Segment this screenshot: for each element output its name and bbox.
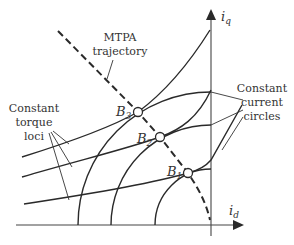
torque-locus-low bbox=[24, 105, 242, 204]
point-b3-label: B3 bbox=[115, 104, 132, 121]
iq-axis-label: iq bbox=[221, 9, 231, 26]
torque-label-line3: loci bbox=[24, 130, 44, 143]
mtpa-trajectory-line bbox=[58, 31, 210, 220]
mtpa-diagram: iq id B3 B2 B1 MTPA trajectory Constant … bbox=[0, 0, 294, 245]
point-b3 bbox=[134, 108, 143, 117]
torque-label-line1: Constant bbox=[9, 102, 60, 115]
mtpa-label-line1: MTPA bbox=[104, 31, 138, 44]
current-label-line1: Constant bbox=[237, 82, 288, 95]
point-b2 bbox=[156, 133, 165, 142]
point-b1-label: B1 bbox=[166, 164, 182, 181]
mtpa-leader-line bbox=[107, 60, 113, 79]
current-label-line2: current bbox=[241, 96, 283, 109]
mtpa-label-line2: trajectory bbox=[93, 45, 149, 58]
torque-label-line2: torque bbox=[16, 116, 53, 129]
point-b2-label: B2 bbox=[136, 131, 153, 148]
constant-current-circles bbox=[78, 92, 211, 225]
current-circle-large bbox=[78, 92, 211, 225]
current-label-line3: circles bbox=[244, 110, 281, 123]
current-leader-lines bbox=[211, 92, 243, 150]
id-axis-label: id bbox=[229, 203, 239, 220]
iq-axis-arrow-icon bbox=[206, 9, 216, 20]
id-axis-arrow-icon bbox=[233, 220, 244, 230]
point-b1 bbox=[184, 169, 193, 178]
